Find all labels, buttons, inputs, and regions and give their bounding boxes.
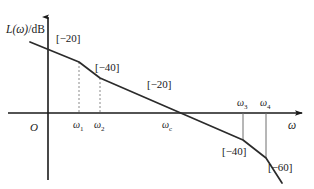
bode-plot-figure: L(ω)/dB ω O [−20] [−40] [−20] [−40] [−60…	[0, 0, 314, 189]
x-axis-label: ω	[288, 120, 296, 132]
slope-label-segment-4: [−40]	[222, 146, 247, 157]
omega-subscript: 1	[80, 125, 84, 133]
origin-label: O	[30, 122, 38, 133]
bode-plot-canvas	[0, 0, 314, 189]
slope-label-segment-5: [−60]	[268, 162, 293, 173]
y-axis-label-text: L(ω)/dB	[6, 23, 45, 35]
omega-glyph: ω	[260, 97, 267, 108]
omega-glyph: ω	[162, 119, 169, 130]
omega-glyph: ω	[237, 97, 244, 108]
x-tick-label-omega3: ω3	[237, 98, 248, 111]
x-tick-label-omega2: ω2	[94, 120, 105, 133]
omega-subscript: 3	[244, 103, 248, 111]
x-tick-label-omega1: ω1	[73, 120, 84, 133]
omega-glyph: ω	[73, 119, 80, 130]
omega-subscript: c	[169, 125, 172, 133]
x-tick-label-omega-c: ωc	[162, 120, 172, 133]
x-tick-label-omega4: ω4	[260, 98, 271, 111]
slope-label-segment-1: [−20]	[56, 33, 81, 44]
omega-subscript: 4	[267, 103, 271, 111]
slope-label-segment-2: [−40]	[95, 62, 120, 73]
omega-subscript: 2	[101, 125, 105, 133]
slope-label-segment-3: [−20]	[147, 79, 172, 90]
omega-glyph: ω	[94, 119, 101, 130]
y-axis-label: L(ω)/dB	[6, 24, 45, 36]
